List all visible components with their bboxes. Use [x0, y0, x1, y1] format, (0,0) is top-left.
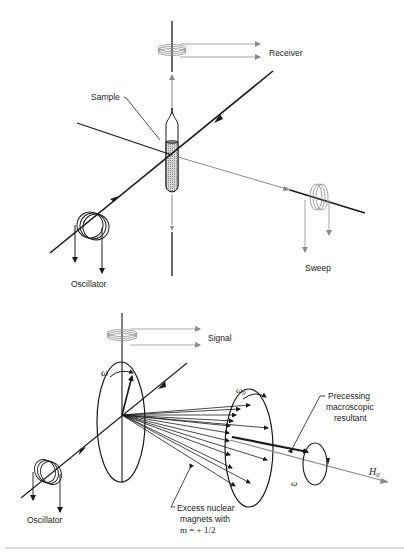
sweep-coil-icon: [305, 184, 329, 252]
sweep-label: Sweep: [305, 263, 331, 273]
precessing-label-line3: resultant: [334, 413, 367, 423]
h0-label: H0: [368, 466, 380, 478]
nuclear-magnet-vectors: [122, 405, 268, 486]
bottom-figure: Signal ω ω0: [21, 313, 389, 535]
sweep-axis-gray: [178, 157, 290, 190]
omega-right-label: ω: [291, 478, 297, 488]
oscillator-label-bottom: Oscillator: [27, 515, 63, 525]
sample-leader-line: [124, 97, 160, 140]
signal-label: Signal: [208, 333, 232, 343]
sweep-axis-left: [77, 123, 172, 155]
precessing-label-line1: Precessing: [328, 391, 370, 401]
macroscopic-resultant-vector: [232, 437, 308, 452]
precession-cone-ellipse: [225, 389, 273, 507]
precessing-label-line2: macroscopic: [326, 402, 374, 412]
oscillator-coil-bottom-icon: [30, 456, 65, 512]
oscillator-label-top: Oscillator: [71, 279, 107, 289]
nmr-diagram: Receiver Sample Sweep: [0, 0, 404, 560]
rotating-field-ellipse: [97, 362, 145, 482]
top-figure: Receiver Sample Sweep: [50, 21, 365, 289]
omega-left-label: ω: [101, 367, 108, 378]
receiver-coil-icon: [158, 44, 260, 57]
signal-coil-icon: [107, 329, 200, 345]
bottom-diagonal-axis: [21, 363, 187, 498]
excess-label-line1: Excess nuclear: [177, 503, 235, 513]
excess-label-line2: magnets with: [180, 514, 230, 524]
precessing-leader-line: [292, 396, 325, 449]
sample-label: Sample: [91, 92, 120, 102]
receiver-label: Receiver: [269, 48, 303, 58]
excess-leader-line: [171, 468, 190, 507]
omega0-label: ω0: [236, 385, 246, 396]
resultant-precession-ellipse: [303, 443, 327, 485]
excess-label-line3: m = + 1/2: [180, 525, 215, 535]
